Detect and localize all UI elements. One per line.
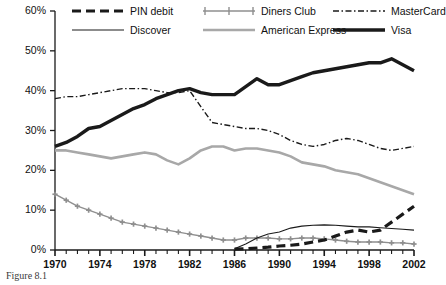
y-tick-label: 60%: [6, 4, 46, 16]
x-tick-label: 1982: [169, 258, 211, 270]
x-tick-label: 1970: [34, 258, 76, 270]
x-tick-label: 1978: [124, 258, 166, 270]
figure-caption: Figure 8.1: [6, 270, 47, 281]
y-tick-label: 10%: [6, 203, 46, 215]
x-tick-label: 1990: [258, 258, 300, 270]
x-tick-label: 1974: [79, 258, 121, 270]
y-tick-label: 0%: [6, 243, 46, 255]
y-tick-label: 50%: [6, 44, 46, 56]
y-tick-label: 40%: [6, 84, 46, 96]
y-tick-label: 20%: [6, 163, 46, 175]
x-tick-label: 1994: [303, 258, 345, 270]
y-tick-label: 30%: [6, 124, 46, 136]
x-tick-label: 1986: [214, 258, 256, 270]
x-tick-label: 1998: [348, 258, 390, 270]
x-tick-label: 2002: [393, 258, 435, 270]
